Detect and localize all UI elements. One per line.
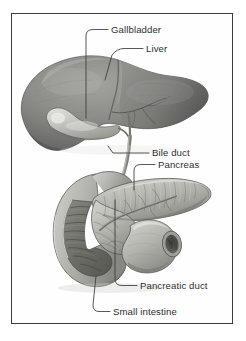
label-gallbladder: Gallbladder [111,24,162,35]
label-small-intestine: Small intestine [113,306,177,317]
label-pancreatic-duct: Pancreatic duct [140,280,208,291]
anatomy-illustration: Gallbladder Liver Bile duct Pancreas Pan… [0,0,246,341]
label-bile-duct: Bile duct [152,147,190,158]
anatomy-figure: Gallbladder Liver Bile duct Pancreas Pan… [0,0,246,341]
liver-organ [21,56,210,152]
label-liver: Liver [146,43,168,54]
label-pancreas: Pancreas [158,159,199,170]
